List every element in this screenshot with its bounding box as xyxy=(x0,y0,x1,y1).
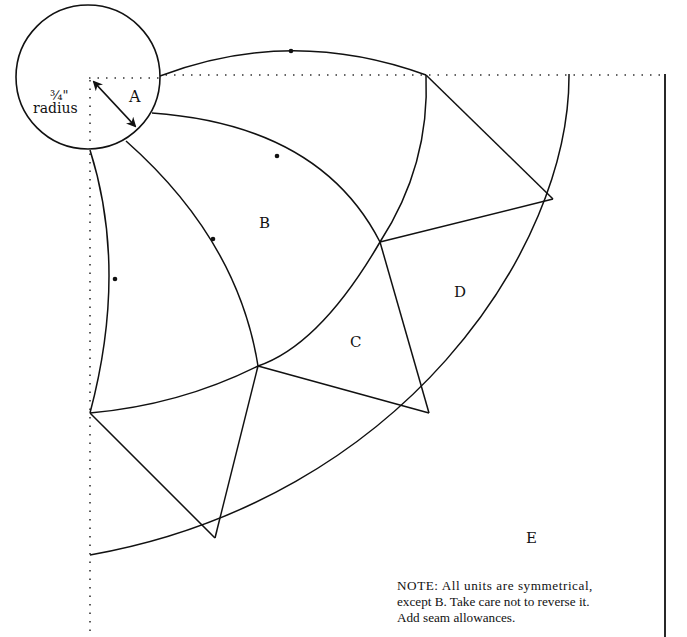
edge-cd xyxy=(380,242,429,413)
note-line-1: NOTE: All units are symmetrical, xyxy=(397,578,667,594)
instruction-note: NOTE: All units are symmetrical, except … xyxy=(397,578,667,626)
dotted-guides xyxy=(89,75,665,637)
edge-lower-left xyxy=(215,366,258,538)
edge-top-triangle xyxy=(426,75,553,199)
alignment-dot xyxy=(211,237,216,242)
piece-a-circle xyxy=(16,5,160,149)
alignment-dot xyxy=(289,49,294,54)
piece-label-d: D xyxy=(454,283,466,301)
note-line-3: Add seam allowances. xyxy=(397,610,667,626)
piece-label-c: C xyxy=(350,333,361,351)
edge-left-triangle xyxy=(90,413,215,538)
alignment-dot xyxy=(113,277,118,282)
note-line-2: except B. Take care not to reverse it. xyxy=(397,594,667,610)
arc-b-left xyxy=(126,141,258,366)
arc-b-top xyxy=(160,51,426,76)
arc-b-right xyxy=(380,75,426,242)
alignment-dot xyxy=(275,154,280,159)
pattern-diagram: A ¾" radius B C D E xyxy=(0,0,687,637)
edge-c-bottom xyxy=(258,366,429,413)
piece-label-b: B xyxy=(259,214,270,232)
edge-cd-top xyxy=(380,199,553,242)
piece-label-e: E xyxy=(526,529,537,547)
radius-word-label: radius xyxy=(33,100,78,116)
arc-left xyxy=(90,150,109,413)
piece-label-a: A xyxy=(128,87,141,106)
